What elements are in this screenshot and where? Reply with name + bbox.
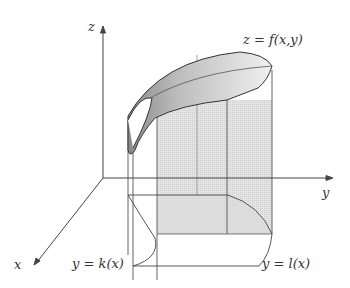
x-axis-label: x	[14, 258, 21, 271]
y-axis-label: y	[322, 186, 329, 199]
z-axis-label: z	[88, 20, 95, 33]
x-axis	[37, 178, 103, 262]
upper-curve-label: y = l(x)	[262, 257, 310, 270]
surface-label: z = f(x,y)	[243, 33, 303, 46]
z-axis-arrow-icon	[101, 26, 106, 33]
y-axis-arrow-icon	[326, 176, 333, 181]
projection-region	[157, 100, 272, 234]
curve-k	[128, 195, 156, 266]
lower-curve-label: y = k(x)	[72, 257, 124, 270]
